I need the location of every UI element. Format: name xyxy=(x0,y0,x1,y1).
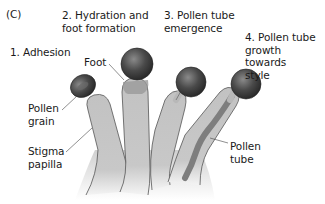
pollen-foot xyxy=(123,80,149,94)
stage-1-label: 1. Adhesion xyxy=(10,46,71,59)
foot-label: Foot xyxy=(84,56,106,69)
stage-4-label: 4. Pollen tube growth towards style xyxy=(245,31,325,81)
leader-stigma-papilla xyxy=(66,128,92,152)
pollen-tube-label: Pollen tube xyxy=(230,140,261,165)
pollen-grain-3 xyxy=(176,67,206,97)
stigma-papilla-2 xyxy=(120,78,150,195)
stage-3-label: 3. Pollen tube emergence xyxy=(164,9,235,34)
pollen-grain-label: Pollen grain xyxy=(28,102,59,127)
stigma-papilla-label: Stigma papilla xyxy=(28,145,64,170)
leader-pollen-grain xyxy=(62,96,77,110)
pollen-grain-2 xyxy=(121,48,153,80)
panel-label: (C) xyxy=(6,8,21,21)
stigma-papilla-1 xyxy=(86,94,128,195)
stage-2-label: 2. Hydration and foot formation xyxy=(62,9,149,34)
